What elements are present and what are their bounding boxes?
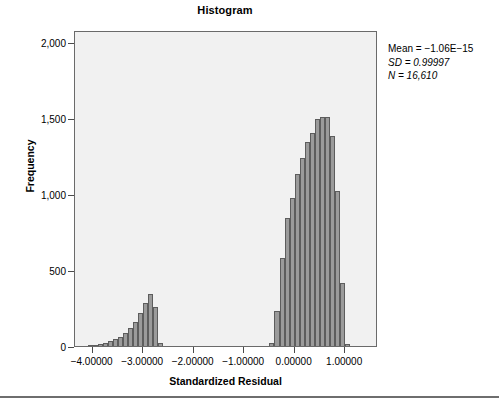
histogram-bar: [153, 307, 158, 346]
x-axis-title: Standardized Residual: [74, 375, 377, 387]
x-axis-tick: [243, 347, 244, 353]
histogram-bar: [345, 344, 350, 346]
bars-container: [75, 32, 376, 346]
y-axis-tick-label-text: 0: [16, 342, 66, 353]
footer-divider: [0, 396, 499, 398]
plot-area: [74, 31, 377, 347]
stat-sd-text: SD = 0.99997: [388, 57, 449, 68]
y-axis-tick-label-text: 1,500: [16, 114, 66, 125]
x-axis-tick: [294, 347, 295, 353]
y-axis-tick: [68, 347, 74, 348]
histogram-bar: [340, 283, 345, 346]
x-axis-tick: [344, 347, 345, 353]
x-axis-tick: [142, 347, 143, 353]
stat-mean: Mean = −1.06E−15: [388, 42, 473, 56]
chart-title: Histogram: [0, 4, 450, 16]
x-axis-tick: [193, 347, 194, 353]
stat-n-text: N = 16,610: [388, 70, 437, 81]
y-axis-tick-label-text: 500: [16, 266, 66, 277]
x-axis-tick-label-text: 1.00000: [308, 356, 380, 367]
y-axis-title: Frequency: [24, 116, 36, 216]
y-axis-tick-label-text: 1,000: [16, 190, 66, 201]
statistics-annotation: Mean = −1.06E−15 SD = 0.99997 N = 16,610: [388, 42, 473, 83]
y-axis-tick-label-text: 2,000: [16, 38, 66, 49]
histogram-figure: Histogram Frequency 05001,0001,5002,000 …: [0, 0, 499, 408]
x-axis-tick: [92, 347, 93, 353]
stat-sd: SD = 0.99997: [388, 56, 473, 70]
stat-n: N = 16,610: [388, 69, 473, 83]
histogram-bar: [158, 343, 163, 346]
